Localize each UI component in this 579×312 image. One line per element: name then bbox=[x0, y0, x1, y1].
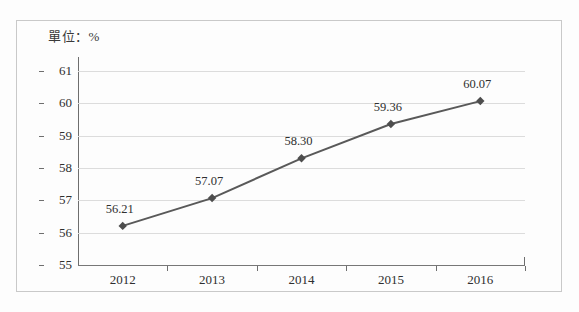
x-tick bbox=[257, 266, 258, 271]
x-tick bbox=[167, 266, 168, 271]
x-tick bbox=[525, 266, 526, 271]
data-point-label: 59.36 bbox=[374, 100, 402, 115]
x-axis-label: 2014 bbox=[272, 272, 332, 288]
chart-screenshot: 單位：% 55565758596061 20122013201420152016… bbox=[0, 0, 579, 312]
y-tick-56 bbox=[39, 233, 44, 234]
y-tick-55 bbox=[39, 265, 44, 266]
y-tick-61 bbox=[39, 71, 44, 72]
data-point-label: 60.07 bbox=[463, 77, 491, 92]
y-tick-59 bbox=[39, 136, 44, 137]
x-axis-label: 2013 bbox=[182, 272, 242, 288]
gridline-55 bbox=[78, 265, 525, 266]
gridline-58 bbox=[78, 168, 525, 169]
y-tick-60 bbox=[39, 103, 44, 104]
x-tick bbox=[346, 266, 347, 271]
data-point-label: 56.21 bbox=[106, 202, 134, 217]
data-point-label: 57.07 bbox=[195, 174, 223, 189]
gridline-60 bbox=[78, 103, 525, 104]
x-tick bbox=[436, 266, 437, 271]
plot-area bbox=[78, 71, 525, 265]
x-axis-label: 2015 bbox=[361, 272, 421, 288]
gridline-61 bbox=[78, 71, 525, 72]
y-tick-57 bbox=[39, 200, 44, 201]
gridline-56 bbox=[78, 233, 525, 234]
x-axis-label: 2016 bbox=[450, 272, 510, 288]
x-axis-label: 2012 bbox=[93, 272, 153, 288]
gridline-57 bbox=[78, 200, 525, 201]
data-point-label: 58.30 bbox=[284, 134, 312, 149]
y-tick-58 bbox=[39, 168, 44, 169]
